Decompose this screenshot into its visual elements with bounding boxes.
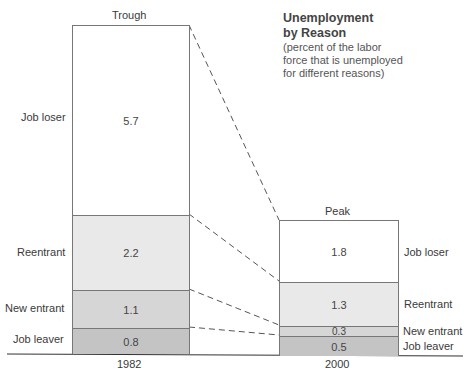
chart-subtitle-line2: force that is unemployed [283, 54, 403, 67]
segment-job-loser-2000: 1.8 [280, 221, 398, 282]
trough-annotation: Trough [112, 9, 146, 21]
segment-reentrant-2000: 1.3 [280, 282, 398, 326]
value-label: 0.8 [123, 336, 138, 348]
bar-2000: 1.8 1.3 0.3 0.5 [279, 220, 399, 356]
segment-job-loser-1982: 5.7 [73, 26, 189, 215]
chart-subtitle-line3: for different reasons) [283, 67, 403, 80]
label-new-entrant-right: New entrant [403, 325, 462, 337]
label-new-entrant-left: New entrant [5, 302, 64, 314]
chart-subtitle-line1: (percent of the labor [283, 41, 403, 54]
label-job-leaver-left: Job leaver [13, 333, 64, 345]
value-label: 0.5 [331, 341, 346, 353]
value-label: 2.2 [123, 247, 138, 259]
segment-reentrant-1982: 2.2 [73, 215, 189, 290]
chart-title-line2: by Reason [283, 26, 403, 41]
label-reentrant-left: Reentrant [17, 246, 65, 258]
segment-job-leaver-1982: 0.8 [73, 328, 189, 354]
value-label: 1.3 [331, 299, 346, 311]
bar-1982: 5.7 2.2 1.1 0.8 [72, 25, 190, 354]
chart-title-line1: Unemployment [283, 11, 403, 26]
label-job-loser-right: Job loser [404, 246, 449, 258]
segment-new-entrant-1982: 1.1 [73, 290, 189, 328]
segment-new-entrant-2000: 0.3 [280, 326, 398, 336]
peak-annotation: Peak [325, 205, 350, 217]
value-label: 1.1 [123, 304, 138, 316]
value-label: 1.8 [331, 246, 346, 258]
year-label-1982: 1982 [117, 358, 141, 370]
label-reentrant-right: Reentrant [404, 298, 452, 310]
segment-job-leaver-2000: 0.5 [280, 336, 398, 356]
value-label: 5.7 [123, 115, 138, 127]
year-label-2000: 2000 [325, 358, 349, 370]
label-job-leaver-right: Job leaver [403, 340, 454, 352]
chart-title-block: Unemployment by Reason (percent of the l… [283, 11, 403, 80]
label-job-loser-left: Job loser [21, 111, 66, 123]
